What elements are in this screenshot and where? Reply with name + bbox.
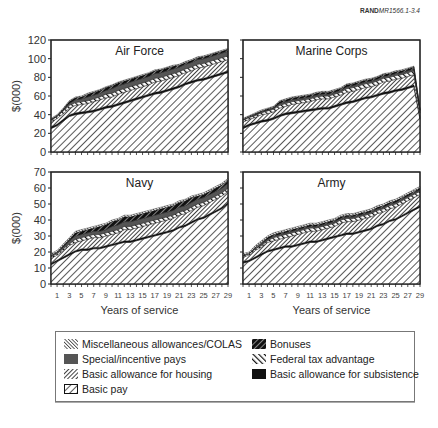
y-tick-label: 70 [34,166,46,178]
y-tick-label: 10 [34,262,46,274]
chart-area: Air Force020406080100120$(000)Marine Cor… [0,0,438,328]
x-tick-label: 19 [163,291,171,300]
x-tick-label: 1 [247,291,251,300]
panel-title: Navy [126,176,153,190]
bah-pattern-icon [64,369,78,379]
x-tick-label: 29 [416,291,424,300]
panel-air-force: Air Force020406080100120$(000) [10,34,228,158]
x-tick-label: 11 [306,291,314,300]
y-tick-label: 50 [34,198,46,210]
legend-label: Basic allowance for subsistence [270,368,419,380]
y-tick-label: 120 [28,34,46,46]
legend-label: Special/incentive pays [82,353,186,365]
y-tick-label: 30 [34,230,46,242]
x-tick-label: 27 [212,291,220,300]
legend-item-fta: Federal tax advantage [252,353,375,365]
x-tick-label: 19 [355,291,363,300]
x-tick-label: 29 [224,291,232,300]
legend-item-bas: Basic allowance for subsistence [252,368,419,380]
x-tick-label: 15 [138,291,146,300]
legend-label: Basic allowance for housing [82,368,212,380]
legend-label: Federal tax advantage [270,353,375,365]
y-axis-label: $(000) [10,212,22,244]
panel-army: Army1357911131517192123252729Years of se… [240,172,424,316]
legend-label: Miscellaneous allowances/COLAS [82,338,242,350]
x-tick-label: 21 [367,291,375,300]
x-tick-label: 23 [379,291,387,300]
y-tick-label: 20 [34,127,46,139]
x-tick-label: 9 [104,291,108,300]
basic-pay-pattern-icon [64,384,78,394]
y-axis-label: $(000) [10,80,22,112]
legend: Miscellaneous allowances/COLAS Special/i… [55,331,415,402]
y-tick-label: 0 [40,278,46,290]
y-tick-label: 0 [40,146,46,158]
x-tick-label: 27 [404,291,412,300]
special-pattern-icon [64,354,78,364]
bonus-pattern-icon [252,339,266,349]
y-tick-label: 40 [34,214,46,226]
legend-item-bah: Basic allowance for housing [64,368,212,380]
panel-title: Army [318,176,346,190]
y-tick-label: 100 [28,53,46,65]
misc-pattern-icon [64,339,78,349]
x-tick-label: 5 [79,291,83,300]
panel-title: Air Force [115,44,164,58]
legend-item-basic: Basic pay [64,383,128,395]
x-tick-label: 13 [318,291,326,300]
x-tick-label: 9 [296,291,300,300]
x-tick-label: 3 [259,291,263,300]
y-tick-label: 60 [34,182,46,194]
y-tick-label: 60 [34,90,46,102]
bas-pattern-icon [252,369,266,379]
x-tick-label: 3 [67,291,71,300]
y-tick-label: 80 [34,71,46,83]
x-tick-label: 5 [271,291,275,300]
x-tick-label: 25 [199,291,207,300]
x-tick-label: 17 [343,291,351,300]
fta-pattern-icon [252,354,266,364]
x-tick-label: 21 [175,291,183,300]
x-tick-label: 7 [284,291,288,300]
legend-label: Basic pay [82,383,128,395]
x-tick-label: 13 [126,291,134,300]
legend-item-bonus: Bonuses [252,338,311,350]
panel-marine-corps: Marine Corps [240,40,420,155]
panel-navy: Navy010203040506070135791113151719212325… [10,166,232,316]
x-tick-label: 23 [187,291,195,300]
legend-label: Bonuses [270,338,311,350]
legend-item-special: Special/incentive pays [64,353,186,365]
legend-item-misc: Miscellaneous allowances/COLAS [64,338,242,350]
x-axis-label: Years of service [101,304,179,316]
x-tick-label: 7 [92,291,96,300]
y-tick-label: 20 [34,246,46,258]
y-tick-label: 40 [34,109,46,121]
x-tick-label: 15 [330,291,338,300]
x-tick-label: 17 [151,291,159,300]
x-tick-label: 25 [391,291,399,300]
x-tick-label: 11 [114,291,122,300]
x-axis-label: Years of service [293,304,371,316]
x-tick-label: 1 [55,291,59,300]
panel-title: Marine Corps [295,44,367,58]
